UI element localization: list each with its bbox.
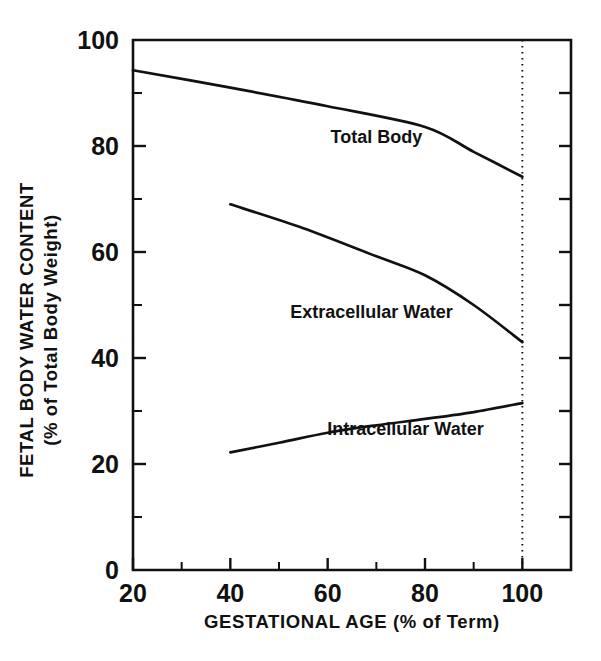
y-axis-title-line1: FETAL BODY WATER CONTENT [16,182,37,478]
y-axis-title-line2: (% of Total Body Weight) [40,214,61,446]
x-tick-label: 60 [314,579,342,607]
series-lines-layer [133,70,522,452]
y-tick-label: 100 [77,26,119,54]
x-tick-label: 100 [501,579,543,607]
series-line-total-body [133,70,522,177]
x-tick-label: 40 [216,579,244,607]
series-annotation: Total Body [330,127,422,147]
y-tick-label: 60 [91,238,119,266]
x-tick-label: 80 [411,579,439,607]
figure-container: FETAL BODY WATER CONTENT (% of Total Bod… [0,0,601,661]
series-annotations-layer: Total BodyExtracellular WaterIntracellul… [290,127,483,439]
y-tick-label: 80 [91,132,119,160]
axis-ticks-layer [133,93,571,570]
x-axis-title: GESTATIONAL AGE (% of Term) [204,611,500,632]
series-annotation: Intracellular Water [327,419,483,439]
x-tick-label: 20 [119,579,147,607]
y-tick-label: 40 [91,344,119,372]
fetal-body-water-content-chart: FETAL BODY WATER CONTENT (% of Total Bod… [0,0,601,661]
y-tick-label: 0 [105,556,119,584]
series-annotation: Extracellular Water [290,302,452,322]
y-tick-label: 20 [91,450,119,478]
y-axis-title: FETAL BODY WATER CONTENT (% of Total Bod… [16,182,61,478]
